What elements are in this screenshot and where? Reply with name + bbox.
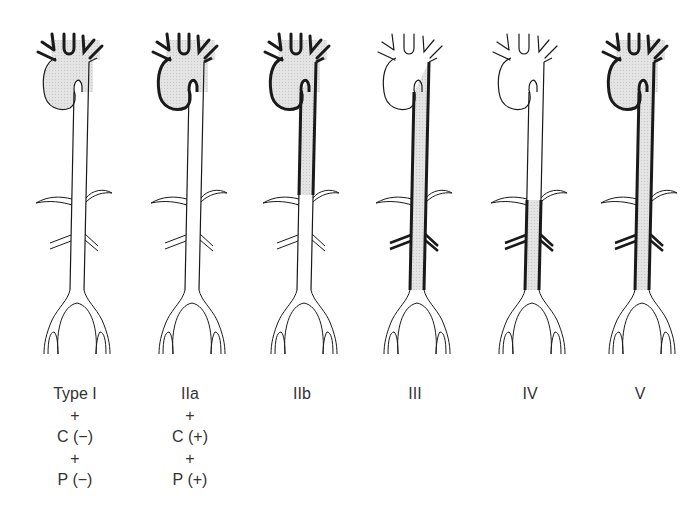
type-label: V (585, 383, 692, 405)
type-label: III (360, 383, 470, 405)
aorta-type-2a (151, 34, 227, 354)
aorta-type-1 (36, 34, 112, 354)
criteria-text: C (+) (135, 426, 245, 448)
criteria-text: P (−) (20, 469, 130, 491)
plus-sign: + (135, 405, 245, 427)
type-label: IIa (135, 383, 245, 405)
plus-sign: + (20, 405, 130, 427)
aorta-type-5 (601, 34, 677, 354)
plus-sign: + (20, 448, 130, 470)
label-type-3: III (360, 383, 470, 405)
plus-sign: + (135, 448, 245, 470)
type-label: IIb (247, 383, 357, 405)
label-type-2b: IIb (247, 383, 357, 405)
aorta-type-2b (263, 34, 339, 354)
criteria-text: P (+) (135, 469, 245, 491)
type-label: Type I (20, 383, 130, 405)
type-label: IV (475, 383, 585, 405)
aorta-diagram (0, 0, 692, 370)
label-type-1: Type I+C (−)+P (−) (20, 383, 130, 491)
aorta-type-4 (491, 34, 567, 354)
label-type-2a: IIa+C (+)+P (+) (135, 383, 245, 491)
criteria-text: C (−) (20, 426, 130, 448)
label-type-5: V (585, 383, 692, 405)
label-type-4: IV (475, 383, 585, 405)
aorta-type-3 (376, 34, 452, 354)
